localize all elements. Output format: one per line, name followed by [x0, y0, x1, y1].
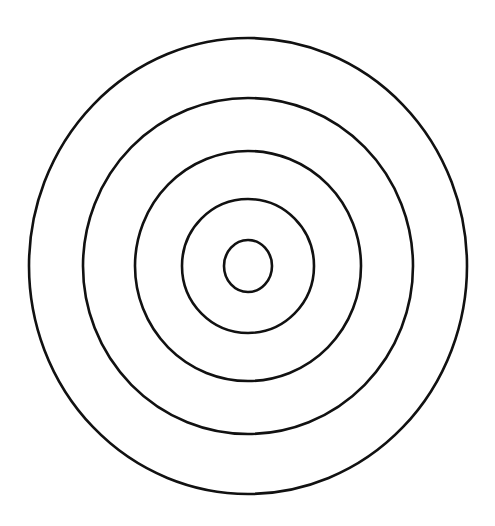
ring-3 [135, 151, 361, 381]
concentric-circles-diagram [0, 0, 495, 526]
ring-4 [182, 199, 314, 333]
ring-5-inner [224, 240, 272, 292]
ring-2 [83, 98, 413, 434]
ring-1-outer [29, 38, 467, 494]
